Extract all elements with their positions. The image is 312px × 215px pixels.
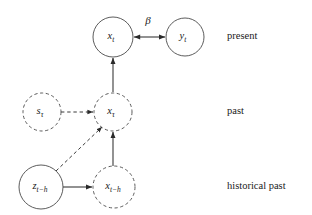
node-label: yt [179, 30, 188, 43]
edge-label-beta: β [144, 14, 151, 26]
edge-z_t_minus_h-x_tau [56, 127, 102, 171]
node-x_t[interactable]: xt [93, 17, 133, 57]
node-label: xτ [106, 105, 115, 118]
row-label-historical-past: historical past [227, 180, 286, 191]
node-s_tau[interactable]: sτ [23, 93, 61, 131]
causal-graph-diagram: β xt yt [0, 0, 312, 215]
node-label: xt [107, 30, 116, 43]
row-label-present: present [227, 30, 257, 41]
edge-line [56, 127, 102, 171]
node-z_t_minus_h[interactable]: zt−h [19, 165, 63, 209]
node-label: zt−h [32, 180, 48, 193]
node-y_t[interactable]: yt [166, 18, 204, 56]
node-x_tau[interactable]: xτ [94, 93, 132, 131]
node-label: sτ [37, 105, 44, 118]
row-label-past: past [227, 105, 244, 116]
node-label: xt−h [104, 180, 121, 193]
edge-x_t-y_t: β [134, 14, 165, 37]
diagram-canvas: β xt yt [0, 0, 312, 215]
node-x_t_minus_h[interactable]: xt−h [93, 166, 135, 208]
